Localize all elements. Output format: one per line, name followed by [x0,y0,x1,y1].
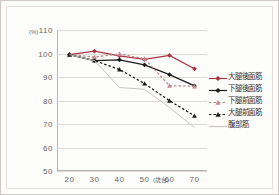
chart-legend: 大腿後面筋下腿後面筋下腿前面筋大腿前面筋腹部筋 [208,69,278,129]
x-tick-label: 40 [115,175,125,184]
legend-label: 下腿前面筋 [228,94,262,105]
y-tick-label: 50 [43,167,53,176]
series-lines [57,30,207,171]
legend-marker-icon [208,70,228,81]
y-tick-label: 90 [43,73,53,82]
legend-item-3: 大腿前面筋 [208,105,278,117]
legend-label: 大腿前面筋 [228,106,262,117]
data-point-marker [142,81,147,85]
y-tick-label: 110 [39,26,53,35]
data-point-marker [167,72,172,77]
x-tick-label: 30 [90,175,100,184]
data-point-marker [117,57,122,62]
y-tick-label: 80 [43,96,53,105]
plot-area: 1101009080706050 203040506070 [57,30,207,171]
series-line [70,55,195,128]
data-point-marker [92,49,97,54]
x-axis-unit-label: (歳台) [153,175,169,184]
legend-label: 大腿後面筋 [228,70,262,81]
legend-marker-icon [208,94,228,105]
legend-item-2: 下腿前面筋 [208,93,278,105]
legend-marker-icon [208,106,228,117]
legend-item-0: 大腿後面筋 [208,69,278,81]
legend-label: 下腿後面筋 [228,82,262,93]
y-tick-label: 60 [43,143,53,152]
grid-line [57,171,207,172]
legend-marker-icon [208,118,228,129]
y-axis-unit-label: (%) [29,29,38,35]
x-tick-label: 50 [140,175,150,184]
data-point-marker [142,62,147,67]
data-point-marker [192,113,197,117]
legend-label: 腹部筋 [228,118,248,129]
chart-figure: (%) 1101009080706050 203040506070 (歳台) 大… [0,0,279,195]
y-tick-label: 70 [43,120,53,129]
data-point-marker [192,66,197,71]
data-point-marker [167,53,172,58]
legend-item-4: 腹部筋 [208,117,278,129]
legend-item-1: 下腿後面筋 [208,81,278,93]
series-line [70,51,195,69]
x-tick-label: 20 [65,175,75,184]
x-tick-label: 70 [190,175,200,184]
y-tick-label: 100 [38,49,53,58]
legend-marker-icon [208,82,228,93]
